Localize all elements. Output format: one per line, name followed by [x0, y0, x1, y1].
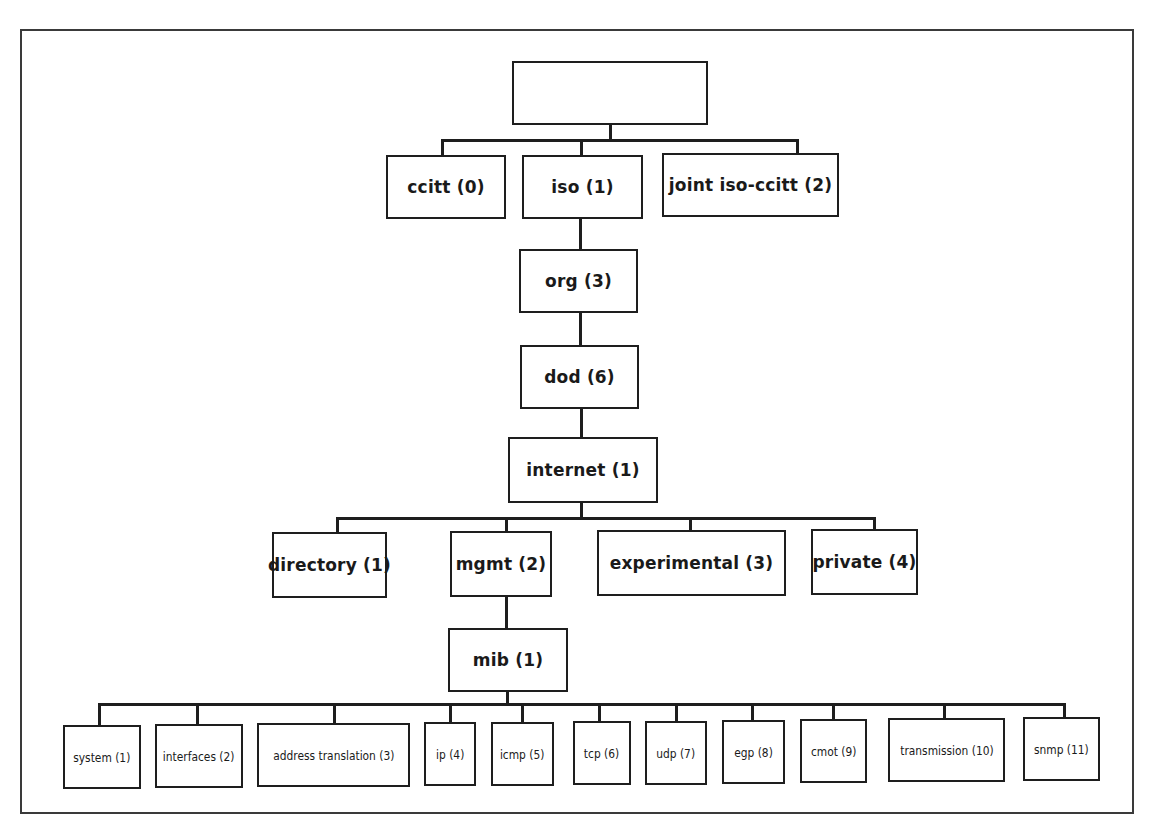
- connector-tcp: [598, 703, 601, 722]
- connector-org-dod: [579, 312, 582, 346]
- node-egp-label: egp (8): [734, 745, 773, 760]
- node-iso: iso (1): [522, 155, 643, 219]
- connector-iso: [580, 139, 583, 155]
- connector-system: [98, 703, 101, 726]
- node-interfaces: interfaces (2): [155, 724, 243, 788]
- connector-cmot: [832, 703, 835, 720]
- node-transmission: transmission (10): [888, 718, 1005, 782]
- node-org-label: org (3): [545, 271, 612, 291]
- node-udp: udp (7): [645, 721, 707, 785]
- node-system: system (1): [63, 725, 141, 789]
- node-mgmt-label: mgmt (2): [456, 554, 547, 574]
- node-internet: internet (1): [508, 437, 658, 503]
- node-experimental-label: experimental (3): [610, 553, 774, 573]
- connector-transmission: [943, 703, 946, 719]
- node-icmp: icmp (5): [491, 722, 554, 786]
- node-snmp: snmp (11): [1023, 717, 1100, 781]
- node-address-translation: address translation (3): [257, 723, 410, 787]
- node-joint-iso-ccitt: joint iso-ccitt (2): [662, 153, 839, 217]
- node-dod: dod (6): [520, 345, 639, 409]
- node-iso-label: iso (1): [551, 177, 613, 197]
- connector-ip: [449, 703, 452, 723]
- connector-interfaces: [196, 703, 199, 725]
- connector-snmp: [1063, 703, 1066, 718]
- node-egp: egp (8): [722, 720, 785, 784]
- connector-mib-bus: [98, 703, 1064, 706]
- node-ccitt-label: ccitt (0): [407, 177, 484, 197]
- node-dod-label: dod (6): [544, 367, 615, 387]
- connector-udp: [675, 703, 678, 722]
- node-ccitt: ccitt (0): [386, 155, 506, 219]
- node-icmp-label: icmp (5): [500, 747, 544, 762]
- node-cmot: cmot (9): [800, 719, 867, 783]
- connector-icmp: [521, 703, 524, 723]
- connector-internet-bus: [336, 517, 876, 520]
- connector-ccitt: [441, 139, 444, 155]
- node-internet-label: internet (1): [526, 460, 639, 480]
- node-private: private (4): [811, 529, 918, 595]
- node-mib-label: mib (1): [473, 650, 543, 670]
- node-udp-label: udp (7): [657, 746, 696, 761]
- node-directory-label: directory (1): [268, 555, 391, 575]
- node-system-label: system (1): [73, 750, 130, 765]
- node-root: [512, 61, 708, 125]
- node-snmp-label: snmp (11): [1034, 742, 1089, 757]
- connector-iso-org: [579, 218, 582, 250]
- connector-level1-bus: [441, 139, 798, 142]
- diagram-frame: [20, 29, 1134, 814]
- node-directory: directory (1): [272, 532, 387, 598]
- node-interfaces-label: interfaces (2): [163, 749, 235, 764]
- node-private-label: private (4): [812, 552, 916, 572]
- connector-mgmt: [505, 517, 508, 532]
- node-transmission-label: transmission (10): [900, 743, 993, 758]
- node-experimental: experimental (3): [597, 530, 786, 596]
- node-org: org (3): [519, 249, 638, 313]
- node-tcp: tcp (6): [573, 721, 631, 785]
- connector-experimental: [689, 517, 692, 531]
- connector-directory: [336, 517, 339, 533]
- connector-address-translation: [333, 703, 336, 724]
- node-tcp-label: tcp (6): [584, 746, 619, 761]
- node-ip-label: ip (4): [436, 747, 464, 762]
- node-ip: ip (4): [424, 722, 476, 786]
- node-cmot-label: cmot (9): [811, 744, 856, 759]
- connector-egp: [751, 703, 754, 721]
- connector-mgmt-mib: [505, 596, 508, 629]
- node-mib: mib (1): [448, 628, 568, 692]
- node-address-translation-label: address translation (3): [273, 748, 394, 763]
- connector-dod-internet: [580, 408, 583, 438]
- node-joint-iso-ccitt-label: joint iso-ccitt (2): [669, 175, 832, 195]
- node-mgmt: mgmt (2): [450, 531, 552, 597]
